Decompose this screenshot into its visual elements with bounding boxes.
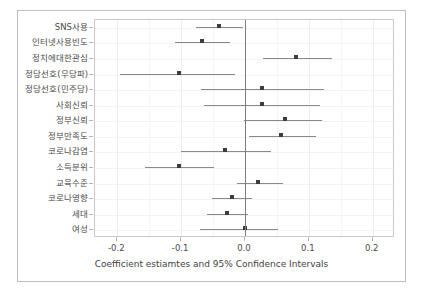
point-estimate-marker <box>217 24 221 28</box>
coefficient-row <box>95 130 393 144</box>
coefficient-row <box>95 83 393 97</box>
coefficient-row <box>95 21 393 35</box>
y-axis-tick <box>89 89 93 90</box>
plot-panel <box>94 19 394 237</box>
zero-reference-line <box>245 20 246 236</box>
x-axis-tick-label: 0.1 <box>301 243 315 253</box>
coefficient-row <box>95 223 393 237</box>
y-axis-tick <box>89 120 93 121</box>
point-estimate-marker <box>230 195 234 199</box>
point-estimate-marker <box>283 117 287 121</box>
y-axis-tick <box>89 74 93 75</box>
y-axis-tick-label: 사회신뢰 <box>56 100 88 110</box>
point-estimate-marker <box>225 211 229 215</box>
y-axis-tick <box>89 58 93 59</box>
x-axis-tick-labels: -0.2-0.10.00.10.2 <box>94 243 394 255</box>
y-axis-tick-label: 정부신뢰 <box>56 115 88 125</box>
point-estimate-marker <box>279 133 283 137</box>
point-estimate-marker <box>177 71 181 75</box>
confidence-interval-bar <box>200 229 278 230</box>
y-axis-labels: SNS사용인터넷사용빈도정치에대한관심정당선호(무당파)정당선호(민주당)사회신… <box>0 19 88 237</box>
y-axis-tick <box>89 136 93 137</box>
coefficient-row <box>95 177 393 191</box>
coefficient-row <box>95 36 393 50</box>
x-axis-tick-label: -0.2 <box>108 243 125 253</box>
y-axis-tick <box>89 229 93 230</box>
y-axis-tick-label: 세대 <box>72 209 88 219</box>
y-axis-tick-label: 정당선호(무당파) <box>25 69 88 79</box>
coefficient-row <box>95 52 393 66</box>
y-axis-tick <box>89 105 93 106</box>
x-axis-tick-label: -0.1 <box>172 243 189 253</box>
point-estimate-marker <box>223 148 227 152</box>
x-axis-tick <box>372 237 373 241</box>
forest-plot-figure: SNS사용인터넷사용빈도정치에대한관심정당선호(무당파)정당선호(민주당)사회신… <box>0 0 423 293</box>
y-axis-tick-label: 인터넷사용빈도 <box>32 37 88 47</box>
x-axis-ticks <box>94 237 394 242</box>
x-axis-tick <box>116 237 117 241</box>
y-axis-tick <box>89 198 93 199</box>
point-estimate-marker <box>260 102 264 106</box>
coefficient-row <box>95 161 393 175</box>
coefficient-row <box>95 145 393 159</box>
point-estimate-marker <box>200 39 204 43</box>
y-axis-tick-label: 정당선호(민주당) <box>25 84 88 94</box>
coefficient-row <box>95 192 393 206</box>
x-axis-title: Coefficient estiamtes and 95% Confidence… <box>17 259 406 269</box>
point-estimate-marker <box>177 164 181 168</box>
coefficient-row <box>95 114 393 128</box>
coefficient-row <box>95 99 393 113</box>
point-estimate-marker <box>294 55 298 59</box>
y-axis-tick-label: 정치에대한관심 <box>32 53 88 63</box>
x-axis-tick <box>180 237 181 241</box>
y-axis-tick-label: 정부만족도 <box>48 131 88 141</box>
coefficient-row <box>95 208 393 222</box>
x-axis-tick-label: 0.0 <box>237 243 251 253</box>
y-axis-tick <box>89 214 93 215</box>
y-axis-tick <box>89 27 93 28</box>
y-axis-tick <box>89 183 93 184</box>
point-estimate-marker <box>256 180 260 184</box>
y-axis-tick <box>89 167 93 168</box>
x-axis-tick-label: 0.2 <box>365 243 379 253</box>
y-axis-tick-label: 코로나감염 <box>48 146 88 156</box>
point-estimate-marker <box>260 86 264 90</box>
y-axis-tick-label: 여성 <box>72 224 88 234</box>
x-axis-tick <box>308 237 309 241</box>
y-axis-tick-label: SNS사용 <box>55 22 88 32</box>
y-axis-tick <box>89 151 93 152</box>
y-axis-tick <box>89 42 93 43</box>
coefficient-row <box>95 68 393 82</box>
y-axis-tick-label: 코로나영향 <box>48 193 88 203</box>
y-axis-tick-label: 교육수준 <box>56 178 88 188</box>
x-axis-tick <box>244 237 245 241</box>
y-axis-tick-label: 소득분위 <box>56 162 88 172</box>
